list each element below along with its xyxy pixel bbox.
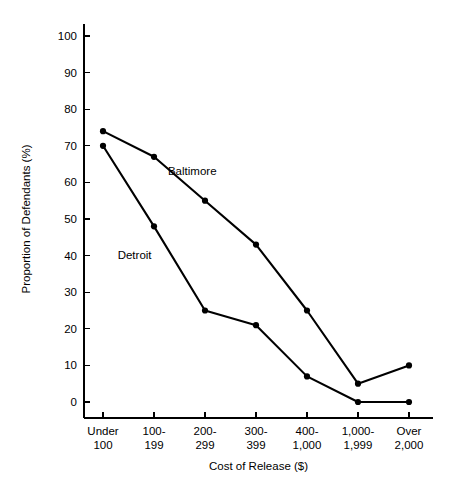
data-point: [202, 198, 208, 204]
x-axis: Under100100-199200-299300-399400-1,0001,…: [84, 412, 433, 451]
data-point: [100, 128, 106, 134]
data-point: [253, 242, 259, 248]
x-axis-tick-label: 299: [195, 439, 214, 451]
series-line: [103, 146, 409, 402]
data-point: [406, 362, 412, 368]
series-detroit: [100, 143, 412, 405]
x-axis-tick-label: 1,000: [293, 439, 322, 451]
data-point: [253, 322, 259, 328]
y-axis-tick-label: 0: [71, 396, 77, 408]
x-axis-tick-label: Under: [87, 425, 118, 437]
x-axis-tick-label: 1,999: [344, 439, 373, 451]
y-axis-tick-label: 60: [64, 176, 77, 188]
y-axis-tick-label: 70: [64, 140, 77, 152]
data-point: [151, 154, 157, 160]
data-point: [100, 143, 106, 149]
y-axis-tick-label: 20: [64, 323, 77, 335]
series-label-baltimore: Baltimore: [168, 165, 217, 177]
series-label-detroit: Detroit: [118, 249, 153, 261]
x-axis-title: Cost of Release ($): [209, 460, 308, 472]
y-axis-tick-label: 100: [58, 30, 77, 42]
series-container: [100, 128, 412, 405]
chart-figure: 0102030405060708090100 Under100100-19920…: [0, 0, 455, 490]
data-point: [151, 223, 157, 229]
x-axis-tick-label: 199: [144, 439, 163, 451]
x-axis-tick-label: 2,000: [395, 439, 424, 451]
data-point: [202, 307, 208, 313]
y-axis-title: Proportion of Defendants (%): [20, 144, 32, 293]
x-axis-tick-label: 300-: [244, 425, 267, 437]
x-axis-tick-label: 100-: [142, 425, 165, 437]
x-axis-tick-label: 399: [246, 439, 265, 451]
x-axis-tick-label: 400-: [295, 425, 318, 437]
y-axis-tick-label: 30: [64, 286, 77, 298]
x-axis-tick-label: 200-: [193, 425, 216, 437]
line-chart-canvas: 0102030405060708090100 Under100100-19920…: [0, 0, 455, 490]
data-point: [406, 399, 412, 405]
y-axis-tick-label: 40: [64, 250, 77, 262]
y-axis-tick-label: 10: [64, 359, 77, 371]
y-axis: 0102030405060708090100: [58, 24, 90, 418]
y-axis-tick-label: 90: [64, 67, 77, 79]
data-point: [304, 373, 310, 379]
data-point: [355, 381, 361, 387]
data-point: [355, 399, 361, 405]
y-axis-tick-label: 80: [64, 103, 77, 115]
x-axis-tick-label: 100: [93, 439, 112, 451]
x-axis-tick-label: 1,000-: [342, 425, 375, 437]
x-axis-tick-label: Over: [397, 425, 422, 437]
data-point: [304, 307, 310, 313]
y-axis-tick-label: 50: [64, 213, 77, 225]
